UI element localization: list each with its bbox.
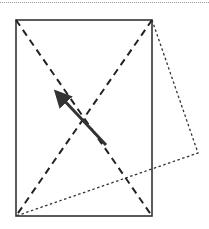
folded-triangle-dotted (16, 20, 198, 216)
geometry-diagram (0, 0, 209, 229)
arrow-icon (60, 96, 106, 145)
